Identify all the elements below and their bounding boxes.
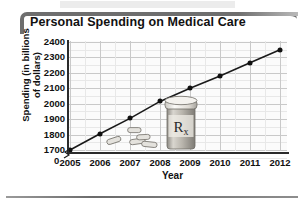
x-axis-line xyxy=(67,152,289,154)
x-axis-tick-labels: 20052006200720082009201020112012 xyxy=(0,157,303,171)
x-axis-tick-label: 2009 xyxy=(179,157,200,168)
y-axis-tick-label: 2400 xyxy=(44,36,65,47)
bottom-divider xyxy=(6,196,298,198)
y-axis-tick-label: 2000 xyxy=(44,98,65,109)
pill-icon xyxy=(136,133,151,142)
y-axis-tick-label: 1800 xyxy=(44,129,65,140)
y-axis-line xyxy=(67,40,69,153)
data-point xyxy=(128,116,133,121)
plot-area: Rx xyxy=(69,41,287,151)
y-axis-tick-label: 2300 xyxy=(44,51,65,62)
pill-bottle-icon: Rx xyxy=(161,89,201,151)
y-axis-tick-label: 1900 xyxy=(44,113,65,124)
x-axis-tick-label: 2006 xyxy=(89,157,110,168)
x-axis-tick-label: 2010 xyxy=(209,157,230,168)
data-point xyxy=(278,47,283,52)
x-axis-tick-label: 2007 xyxy=(119,157,140,168)
y-axis-tick-label: 2200 xyxy=(44,67,65,78)
x-axis-title-text: Year xyxy=(162,170,183,181)
x-axis-tick-label: 2005 xyxy=(59,157,80,168)
chart-figure: Personal Spending on Medical Care Spendi… xyxy=(0,0,303,206)
data-point xyxy=(248,60,253,65)
y-axis-tick-label: 2100 xyxy=(44,82,65,93)
x-axis-title: Year xyxy=(0,170,303,181)
data-point xyxy=(98,131,103,136)
x-axis-tick-label: 2008 xyxy=(149,157,170,168)
scan-artifact-bar xyxy=(60,1,235,8)
x-axis-tick-label: 2012 xyxy=(269,157,290,168)
x-axis-tick-label: 2011 xyxy=(240,157,261,168)
data-point xyxy=(218,73,223,78)
